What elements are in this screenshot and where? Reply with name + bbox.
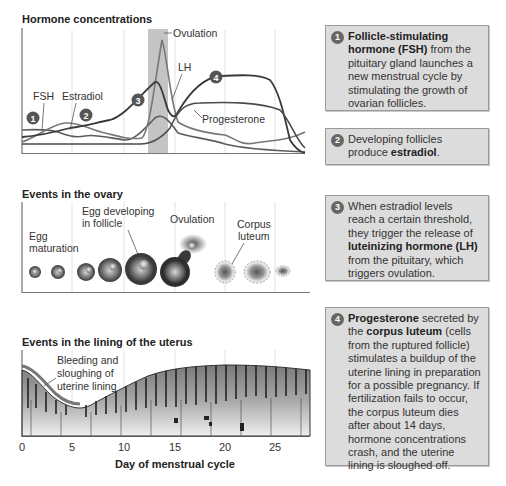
bleeding-label-line1: Bleeding and	[57, 354, 118, 366]
callout-4-bold-corpus-luteum: corpus luteum	[366, 325, 442, 337]
lh-label: LH	[178, 61, 191, 73]
callout-3-bold: luteinizing hormone (LH)	[348, 240, 478, 252]
callout-1-fsh: 1 Follicle-stimulating hormone (FSH) fro…	[325, 25, 489, 111]
tick-20: 20	[219, 441, 231, 453]
progesterone-label: Progesterone	[202, 113, 265, 125]
callout-2-bold: estradiol	[391, 146, 437, 158]
tick-10: 10	[118, 441, 130, 453]
fsh-label: FSH	[33, 90, 54, 102]
tick-25: 25	[269, 441, 281, 453]
egg-developing-label-line1: Egg developing	[82, 205, 155, 217]
svg-text:1: 1	[30, 114, 35, 124]
tick-0: 0	[19, 441, 25, 453]
badge-2: 2	[331, 134, 344, 147]
ovary-panel: Egg maturation Egg developing in follicl…	[22, 202, 310, 293]
ovulation-label: Ovulation	[173, 27, 218, 39]
badge-3: 3	[331, 201, 344, 214]
egg-developing-label-line2: in follicle	[82, 217, 122, 229]
tick-15: 15	[169, 441, 181, 453]
corpus-luteum-stage-2	[244, 261, 270, 283]
ovulating-follicle	[160, 234, 207, 287]
callout-3-text: When estradiol levels reach a certain th…	[348, 200, 473, 239]
hormone-chart: Ovulation LH FSH Estradiol Progesterone …	[22, 27, 305, 154]
callout-4-tail: (cells from the ruptured follicle) stimu…	[348, 325, 481, 471]
uterus-panel: Bleeding and sloughing of uterine lining	[22, 350, 310, 437]
badge-4: 4	[331, 313, 344, 326]
chart-badge-1: 1	[27, 112, 40, 125]
ovulation-event-label: Ovulation	[170, 213, 215, 225]
corpus-luteum-stage-1	[215, 261, 235, 283]
corpus-luteum-stage-3	[276, 266, 290, 276]
x-axis-ticks: 0 5 10 15 20 25	[19, 441, 281, 453]
callout-2-tail: .	[437, 146, 440, 158]
egg-maturation-stage-1	[29, 266, 41, 278]
badge-1: 1	[331, 31, 344, 44]
corpus-luteum-label-line2: luteum	[238, 230, 270, 242]
chart-badge-4: 4	[210, 71, 223, 84]
x-axis-title: Day of menstrual cycle	[115, 458, 235, 470]
callout-4-progesterone: 4 Progesterone secreted by the corpus lu…	[325, 307, 489, 466]
egg-maturation-label-line2: maturation	[29, 242, 79, 254]
egg-maturation-label-line1: Egg	[29, 230, 48, 242]
egg-maturation-stage-2	[51, 265, 65, 279]
corpus-luteum-label-line1: Corpus	[237, 218, 271, 230]
tick-5: 5	[69, 441, 75, 453]
menstrual-cycle-diagram: Ovulation LH FSH Estradiol Progesterone …	[0, 0, 320, 486]
svg-text:3: 3	[135, 96, 140, 106]
svg-text:4: 4	[213, 73, 218, 83]
callout-2-estradiol: 2 Developing follicles produce estradiol…	[325, 128, 489, 165]
egg-maturation-stage-3	[77, 263, 95, 281]
callout-3-lh: 3 When estradiol levels reach a certain …	[325, 195, 489, 281]
egg-maturation-stage-4	[98, 258, 122, 282]
bleeding-label-line3: uterine lining	[57, 380, 117, 392]
chart-badge-2: 2	[80, 109, 93, 122]
chart-badge-3: 3	[132, 94, 145, 107]
svg-text:2: 2	[83, 111, 88, 121]
callout-4-bold-progesterone: Progesterone	[348, 312, 419, 324]
bleeding-label-line2: sloughing of	[57, 367, 114, 379]
estradiol-label: Estradiol	[62, 90, 103, 102]
developing-follicle	[125, 253, 157, 285]
callout-3-tail: from the pituitary, which triggers ovula…	[348, 254, 463, 279]
